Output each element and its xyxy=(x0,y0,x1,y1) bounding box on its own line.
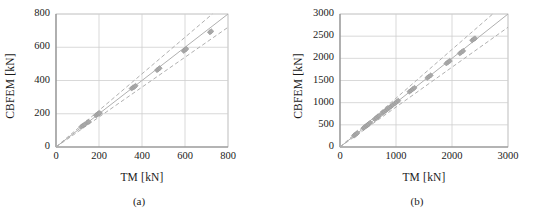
plot-b xyxy=(340,14,510,149)
panel-a: CBFEM [kN] 0200400600800 0200400600800 T… xyxy=(0,0,278,217)
x-tick-label: 200 xyxy=(76,150,122,161)
x-tick-label: 1000 xyxy=(373,150,419,161)
y-tick-label: 3000 xyxy=(278,7,334,18)
x-tick-label: 3000 xyxy=(485,150,531,161)
x-tick-label: 2000 xyxy=(429,150,475,161)
x-tick-label: 400 xyxy=(119,150,165,161)
x-axis-title-b: TM [kN] xyxy=(340,171,508,183)
y-tick-label: 400 xyxy=(0,74,50,85)
y-tick-label: 2000 xyxy=(278,51,334,62)
y-tick-label: 600 xyxy=(0,40,50,51)
x-tick-label: 800 xyxy=(205,150,251,161)
x-axis-title-a: TM [kN] xyxy=(56,171,228,183)
y-tick-label: 200 xyxy=(0,107,50,118)
y-tick-label: 800 xyxy=(0,7,50,18)
figure-container: CBFEM [kN] 0200400600800 0200400600800 T… xyxy=(0,0,556,217)
plot-a xyxy=(56,14,230,149)
x-tick-label: 0 xyxy=(317,150,363,161)
y-tick-label: 500 xyxy=(278,118,334,129)
y-tick-label: 1000 xyxy=(278,96,334,107)
subcaption-a: (a) xyxy=(0,195,278,207)
y-tick-label: 2500 xyxy=(278,29,334,40)
x-tick-label: 0 xyxy=(33,150,79,161)
subcaption-b: (b) xyxy=(278,195,556,207)
x-tick-label: 600 xyxy=(162,150,208,161)
y-tick-label: 1500 xyxy=(278,74,334,85)
panel-b: CBFEM [kN] 050010001500200025003000 0100… xyxy=(278,0,556,217)
